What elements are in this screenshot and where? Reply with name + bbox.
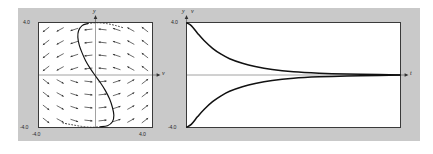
field-arrow	[43, 118, 49, 123]
field-arrow	[71, 67, 79, 70]
phase-y-arrowhead-icon	[94, 15, 98, 19]
field-arrow	[43, 105, 49, 110]
figure-panel: y v 4.0 -4.0 -4.0 4.0 y v t 4.0 -4.0	[18, 8, 420, 141]
phase-y-bottom-tick: -4.0	[20, 124, 28, 130]
field-arrow	[57, 80, 64, 84]
phase-v-axis-label: v	[162, 70, 165, 76]
time-t-arrowhead-icon	[405, 73, 409, 77]
field-arrow	[99, 28, 107, 30]
phase-v-arrowhead-icon	[157, 73, 161, 77]
field-arrow	[99, 67, 107, 69]
field-arrow	[71, 93, 79, 96]
field-arrow	[57, 106, 64, 110]
field-arrow	[142, 40, 148, 45]
time-series-plot	[186, 22, 401, 128]
field-arrow	[99, 54, 107, 56]
field-arrow	[127, 80, 134, 84]
time-y-bottom-tick: -4.0	[168, 124, 176, 130]
field-arrow	[142, 27, 148, 32]
field-arrow	[113, 80, 121, 83]
field-arrow	[142, 79, 148, 84]
time-series-canvas	[187, 23, 400, 127]
phase-portrait-plot	[38, 22, 153, 128]
field-arrow	[43, 66, 49, 71]
phase-y-axis-label: y	[93, 8, 96, 14]
time-series-curve-v	[187, 75, 400, 127]
time-t-axis-label: t	[410, 70, 412, 76]
field-arrow	[113, 41, 121, 44]
field-arrow	[71, 41, 79, 44]
field-arrow	[99, 106, 107, 108]
phase-axes-group	[39, 23, 152, 127]
field-arrow	[142, 105, 148, 110]
field-arrow	[127, 41, 134, 45]
field-arrow	[127, 28, 134, 32]
field-arrow	[57, 28, 64, 32]
field-arrow	[71, 106, 79, 109]
field-arrow	[113, 119, 121, 122]
field-arrow	[43, 27, 49, 32]
field-arrow	[113, 28, 121, 31]
field-arrow	[57, 67, 64, 71]
field-arrow	[99, 119, 107, 121]
field-arrow	[99, 93, 107, 95]
field-arrow	[113, 54, 121, 57]
field-arrow	[43, 92, 49, 97]
field-arrow	[57, 54, 64, 58]
field-arrow	[57, 93, 64, 97]
field-arrow	[142, 66, 148, 71]
field-arrow	[84, 107, 92, 109]
field-arrow	[84, 42, 92, 44]
field-arrow	[127, 54, 134, 58]
field-arrow	[71, 28, 79, 31]
field-arrow	[84, 55, 92, 57]
field-arrow	[57, 41, 64, 45]
field-arrow	[142, 118, 148, 123]
field-arrow	[43, 79, 49, 84]
field-arrow	[84, 120, 92, 122]
field-arrow	[127, 119, 134, 123]
field-arrow	[113, 67, 121, 70]
time-y-arrowhead-icon	[185, 15, 189, 19]
field-arrow	[84, 29, 92, 31]
field-arrow	[113, 106, 121, 109]
field-arrow	[99, 41, 107, 43]
figure-root: y v 4.0 -4.0 -4.0 4.0 y v t 4.0 -4.0	[0, 0, 433, 154]
time-y-axis-label: y	[182, 8, 185, 14]
time-v-axis-label: v	[191, 8, 194, 14]
time-series-curve-y	[187, 23, 400, 75]
phase-y-top-tick: 4.0	[23, 19, 30, 25]
phase-x-left-tick: -4.0	[32, 131, 40, 137]
field-arrow	[127, 93, 134, 97]
field-arrow	[84, 94, 92, 96]
time-y-top-tick: 4.0	[171, 19, 178, 25]
phase-x-right-tick: 4.0	[139, 131, 146, 137]
field-arrow	[71, 80, 79, 83]
field-arrow	[71, 119, 79, 122]
field-arrow	[127, 67, 134, 71]
field-arrow	[142, 53, 148, 58]
field-arrow	[71, 54, 79, 57]
field-arrow	[57, 119, 64, 123]
field-arrow	[43, 53, 49, 58]
field-arrow	[84, 81, 92, 83]
field-arrow	[113, 93, 121, 96]
field-arrow	[142, 92, 148, 97]
field-arrow	[127, 106, 134, 110]
field-arrow	[43, 40, 49, 45]
phase-portrait-canvas	[39, 23, 152, 127]
